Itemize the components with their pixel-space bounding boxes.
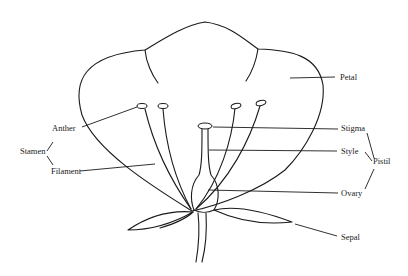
label-stigma: Stigma — [341, 123, 365, 133]
label-anther: Anther — [52, 123, 76, 133]
label-ovary: Ovary — [341, 188, 363, 198]
stem — [196, 213, 206, 262]
pistil-drawing — [191, 123, 218, 212]
label-petal: Petal — [340, 72, 358, 82]
label-sepal: Sepal — [341, 232, 361, 242]
leader-lines — [47, 77, 374, 236]
label-filament: Filament — [51, 166, 82, 176]
petal-outline — [79, 22, 323, 211]
flower-diagram: Petal Anther Stamen Filament Stigma Styl… — [0, 0, 408, 276]
label-stamen: Stamen — [20, 146, 46, 156]
label-pistil: Pistil — [373, 156, 391, 166]
label-style: Style — [341, 146, 359, 156]
anthers — [137, 99, 266, 109]
filaments — [145, 106, 260, 209]
